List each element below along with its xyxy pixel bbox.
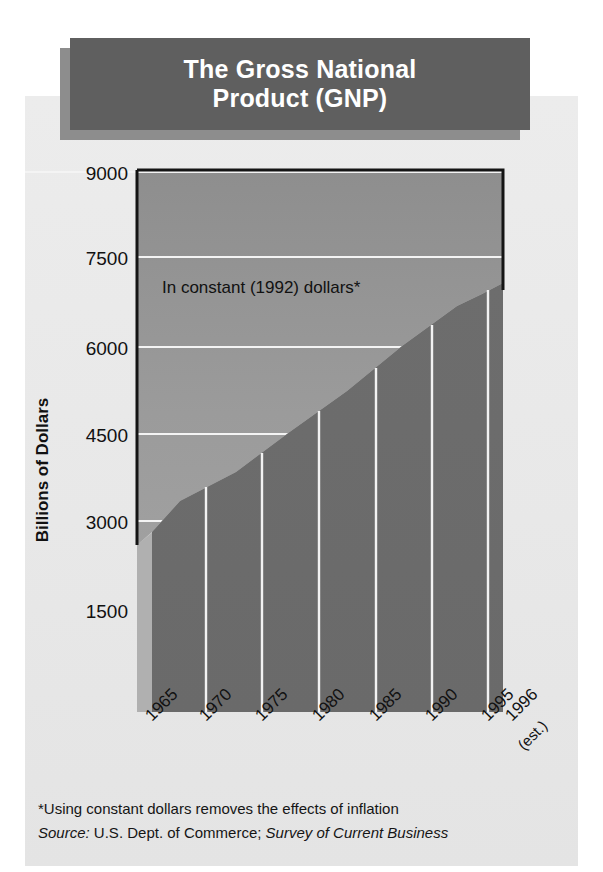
y-axis-label: Billions of Dollars: [33, 398, 52, 543]
page-root: The Gross National Product (GNP): [0, 0, 603, 872]
y-tick-1500: 1500: [86, 601, 128, 622]
footnote: *Using constant dollars removes the effe…: [38, 800, 568, 817]
y-tick-7500: 7500: [86, 248, 128, 269]
source-publication: Survey of Current Business: [266, 824, 449, 841]
chart-annotation: In constant (1992) dollars*: [162, 278, 361, 297]
y-tick-4500: 4500: [86, 425, 128, 446]
area-left-side-face: [137, 532, 152, 712]
y-tick-3000: 3000: [86, 512, 128, 533]
source-text: U.S. Dept. of Commerce;: [90, 824, 266, 841]
gnp-area-chart: 9000 7500 6000 4500 3000 1500 Billions o…: [0, 0, 603, 872]
x-tick-1996-sublabel: (est.): [514, 717, 550, 753]
y-axis-ticks: 9000 7500 6000 4500 3000 1500: [86, 163, 128, 622]
source-line: Source: U.S. Dept. of Commerce; Survey o…: [38, 824, 568, 841]
y-tick-9000: 9000: [86, 163, 128, 184]
source-label: Source:: [38, 824, 90, 841]
y-tick-6000: 6000: [86, 338, 128, 359]
chart-container: 9000 7500 6000 4500 3000 1500 Billions o…: [0, 0, 603, 872]
